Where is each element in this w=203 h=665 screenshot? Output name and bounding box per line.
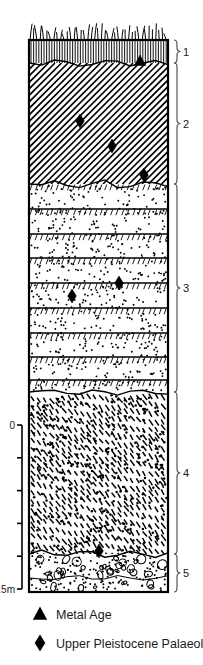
grass-blade: [76, 27, 77, 40]
scale-bar: [17, 425, 22, 589]
grass-blade: [95, 23, 97, 40]
grass-blade: [101, 23, 102, 40]
grass-blade: [69, 27, 71, 40]
grass-blade: [137, 26, 139, 40]
scale-label-top: 0: [9, 420, 15, 431]
brace-unit-4: [174, 392, 181, 554]
grass-blade: [57, 32, 58, 40]
grass-blade: [42, 26, 44, 40]
unit-number-5: 5: [183, 567, 189, 579]
grass-blade: [159, 30, 160, 40]
legend-triangle-icon: [33, 607, 47, 620]
grass-blade: [33, 28, 34, 41]
scale-label-bottom: 0.5m: [0, 584, 15, 595]
legend-label-1: Upper Pleistocene Palaeolithic: [56, 637, 203, 651]
grass-blade: [156, 23, 157, 40]
grass-blade: [132, 32, 133, 40]
legend-diamond-icon: [35, 635, 46, 652]
grass-blade: [74, 28, 75, 40]
unit-number-2: 2: [183, 118, 189, 130]
grass-blade: [115, 33, 116, 41]
unit-number-4: 4: [183, 467, 189, 479]
grass-blade: [48, 32, 50, 41]
unit-braces: 12345: [174, 40, 189, 592]
brace-unit-1: [174, 40, 181, 63]
surface-vegetation: [30, 23, 166, 40]
brace-unit-2: [174, 63, 181, 184]
grass-blade: [162, 28, 163, 40]
unit-number-1: 1: [183, 46, 189, 58]
grass-blade: [129, 25, 130, 40]
grass-blade: [117, 27, 119, 41]
grass-blade: [142, 26, 145, 40]
grass-blade: [91, 27, 93, 40]
grass-blade: [112, 28, 114, 40]
figure-canvas: 00.5m12345Metal AgeUpper Pleistocene Pal…: [0, 0, 203, 665]
legend: Metal AgeUpper Pleistocene Palaeolithic: [33, 607, 203, 652]
grass-blade: [54, 27, 56, 40]
grass-blade: [34, 25, 36, 40]
grass-blade: [122, 29, 123, 40]
unit-1-texture: [31, 40, 166, 63]
grass-blade: [40, 26, 41, 40]
grass-blade: [144, 29, 145, 40]
grass-blade: [83, 30, 84, 40]
grass-blade: [30, 24, 32, 40]
brace-unit-5: [174, 554, 181, 592]
grass-blade: [106, 31, 108, 40]
grass-blade: [97, 28, 98, 40]
brace-unit-3: [174, 184, 181, 392]
grass-blade: [105, 30, 106, 40]
legend-label-0: Metal Age: [56, 608, 112, 622]
unit-number-3: 3: [183, 282, 189, 294]
section-svg: 00.5m12345Metal AgeUpper Pleistocene Pal…: [0, 0, 203, 665]
grass-blade: [88, 24, 90, 40]
